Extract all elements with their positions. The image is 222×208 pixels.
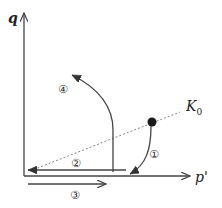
path-4-marker: ④ bbox=[58, 83, 68, 96]
stress-path-diagram: q p' K0 ① ② ③ ④ bbox=[0, 0, 222, 208]
x-axis-label: p' bbox=[195, 169, 208, 185]
path-1 bbox=[130, 126, 151, 174]
k0-label: K0 bbox=[185, 98, 202, 117]
path-3-marker: ③ bbox=[70, 189, 80, 202]
initial-state-dot bbox=[148, 118, 157, 127]
path-2-marker: ② bbox=[71, 157, 81, 170]
path-1-marker: ① bbox=[149, 148, 159, 161]
k0-line bbox=[30, 112, 180, 171]
k0-label-subscript: 0 bbox=[196, 107, 202, 117]
y-axis-label: q bbox=[8, 10, 18, 26]
